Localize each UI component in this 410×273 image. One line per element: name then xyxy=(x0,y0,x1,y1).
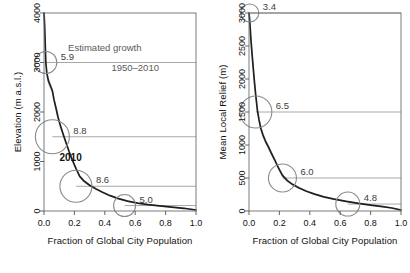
x-tick-label: 0.8 xyxy=(364,218,377,228)
text-annotation: 1950–2010 xyxy=(111,62,159,73)
y-tick-label: 2000 xyxy=(32,102,42,122)
x-tick-label: 0.8 xyxy=(159,218,172,228)
chart-panel-elevation: 010002000300040000.00.20.40.60.81.0 5.98… xyxy=(0,0,205,273)
x-tick-label: 0.2 xyxy=(273,218,286,228)
x-tick-label: 0.0 xyxy=(38,218,51,228)
y-tick-label: 0 xyxy=(32,208,42,213)
x-tick-label: 0.4 xyxy=(99,218,112,228)
annotation-value-6.5: 6.5 xyxy=(276,100,289,111)
relief-plot-group: 0500100015002000250030000.00.20.40.60.81… xyxy=(237,1,407,228)
text-annotations: Estimated growth1950–20102010 xyxy=(59,42,159,163)
annotation-value-8.8: 8.8 xyxy=(73,125,86,136)
x-axis-label: Fraction of Global City Population xyxy=(253,235,398,246)
x-tick-label: 0.4 xyxy=(304,218,317,228)
y-axis-label: Mean Local Relief (m) xyxy=(217,64,228,159)
x-tick-label: 0.0 xyxy=(243,218,256,228)
elevation-plot-svg: 010002000300040000.00.20.40.60.81.0 5.98… xyxy=(0,0,205,273)
y-tick-label: 3000 xyxy=(32,52,42,72)
x-axis-label: Fraction of Global City Population xyxy=(48,235,193,246)
x-tick-label: 0.6 xyxy=(334,218,347,228)
x-tick-label: 1.0 xyxy=(190,218,203,228)
figure-container: 010002000300040000.00.20.40.60.81.0 5.98… xyxy=(0,0,410,273)
x-tick-label: 1.0 xyxy=(395,218,408,228)
annotation-value-3.4: 3.4 xyxy=(263,1,276,12)
y-axis-label: Elevation (m a.s.l.) xyxy=(12,72,23,153)
annotation-labels: 3.46.56.04.8 xyxy=(263,1,377,203)
y-tick-label: 4000 xyxy=(32,3,42,23)
annotation-labels: 5.98.88.65.0 xyxy=(61,51,153,205)
y-tick-label: 0 xyxy=(237,208,247,213)
text-annotation: Estimated growth xyxy=(68,42,141,53)
y-tick-label: 2000 xyxy=(237,69,247,89)
x-tick-label: 0.2 xyxy=(68,218,81,228)
elevation-plot-group: 010002000300040000.00.20.40.60.81.0 5.98… xyxy=(32,3,202,228)
y-tick-label: 1000 xyxy=(32,151,42,171)
text-annotation: 2010 xyxy=(59,152,82,163)
annotation-leader-lines xyxy=(250,13,401,204)
chart-panel-relief: 0500100015002000250030000.00.20.40.60.81… xyxy=(205,0,410,273)
y-tick-label: 1000 xyxy=(237,135,247,155)
y-tick-label: 500 xyxy=(237,170,247,185)
y-tick-label: 3000 xyxy=(237,3,247,23)
relief-plot-svg: 0500100015002000250030000.00.20.40.60.81… xyxy=(205,0,410,273)
uncertainty-band xyxy=(44,8,196,211)
annotation-value-4.8: 4.8 xyxy=(364,192,377,203)
annotation-value-5.0: 5.0 xyxy=(140,194,153,205)
y-tick-label: 1500 xyxy=(237,102,247,122)
annotation-value-8.6: 8.6 xyxy=(96,174,109,185)
x-tick-label: 0.6 xyxy=(129,218,142,228)
annotation-value-6.0: 6.0 xyxy=(300,166,313,177)
axis-ticks: 0500100015002000250030000.00.20.40.60.81… xyxy=(237,3,407,228)
y-tick-label: 2500 xyxy=(237,36,247,56)
annotation-leader-lines xyxy=(46,63,196,206)
